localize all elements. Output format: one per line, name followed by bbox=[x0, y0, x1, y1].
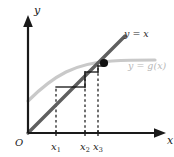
y-axis-label: y bbox=[33, 4, 41, 17]
x-axis-label: x bbox=[167, 134, 174, 147]
g-curve-label: y = g(x) bbox=[127, 60, 167, 71]
cobweb-diagram: y x O y = x y = g(x) x1 x2 x3 bbox=[0, 0, 174, 157]
cobweb-staircase bbox=[56, 66, 104, 87]
y-axis-arrowhead bbox=[23, 15, 33, 27]
origin-label: O bbox=[15, 137, 23, 148]
tick-label-x3-sub: 3 bbox=[99, 146, 103, 154]
identity-line-label: y = x bbox=[123, 28, 149, 39]
x-tick-labels: x1 x2 x3 bbox=[51, 141, 103, 154]
tick-label-x3: x3 bbox=[93, 141, 103, 154]
tick-label-x1-sub: 1 bbox=[57, 146, 61, 154]
figure-container: y x O y = x y = g(x) x1 x2 x3 bbox=[0, 0, 174, 157]
tick-label-x2-sub: 2 bbox=[86, 146, 90, 154]
tick-label-x2: x2 bbox=[80, 141, 90, 154]
tick-label-x1: x1 bbox=[51, 141, 61, 154]
x-axis-arrowhead bbox=[154, 128, 166, 138]
intersection-point-dot bbox=[100, 59, 108, 67]
identity-line-path bbox=[28, 36, 125, 133]
